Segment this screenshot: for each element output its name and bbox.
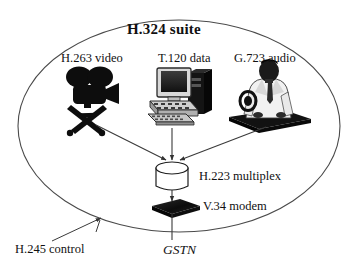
cylinder-icon (156, 162, 188, 190)
node-label-multiplex: H.223 multiplex (199, 170, 281, 183)
page-title: H.324 suite (127, 22, 201, 37)
h245-control-arrow (52, 218, 101, 241)
node-label-video: H.263 video (61, 52, 123, 65)
node-label-audio: G.723 audio (234, 52, 296, 65)
annotation-label-gstn: GSTN (163, 243, 196, 257)
node-label-modem: V.34 modem (203, 200, 267, 213)
node-label-data: T.120 data (158, 52, 211, 65)
diagram-canvas: H.324 suite H.263 video T.120 data G.723… (0, 0, 358, 268)
h245-control-arrow-tick (96, 220, 100, 232)
annotation-label-control: H.245 control (15, 243, 84, 256)
h324-architecture-diagram (0, 0, 358, 268)
